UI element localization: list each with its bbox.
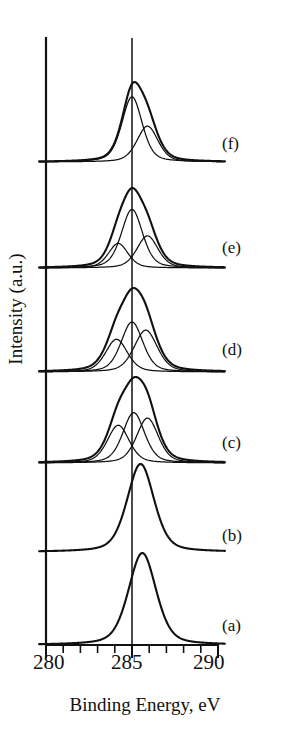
y-axis-label: Intensity (a.u.): [5, 209, 27, 409]
curve-label-b: (b): [222, 527, 242, 544]
curve-label-e: (e): [222, 239, 241, 256]
curve-label-c: (c): [222, 434, 241, 451]
xps-spectra-figure: 280 285 290 (f) (e) (d) (c) (b) (a) Bind…: [0, 0, 290, 738]
curve-label-f: (f): [222, 135, 239, 152]
x-tick-label-280: 280: [33, 652, 65, 673]
x-tick-label-285: 285: [111, 652, 143, 673]
x-tick-label-290: 290: [193, 652, 225, 673]
x-axis-label: Binding Energy, eV: [0, 694, 290, 716]
plot-area: [0, 0, 290, 738]
curve-label-a: (a): [222, 617, 241, 634]
curve-label-d: (d): [222, 341, 242, 358]
